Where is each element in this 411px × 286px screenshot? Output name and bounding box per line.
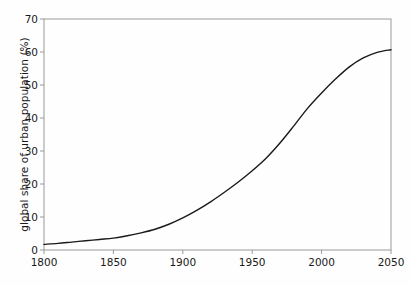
plot-area <box>0 0 411 286</box>
series-line-global-share-of-urban-population <box>44 50 391 245</box>
y-tick-marks <box>40 19 44 250</box>
x-tick-marks <box>44 250 391 254</box>
chart-figure: global share of urban population (%) 010… <box>0 0 411 286</box>
plot-frame <box>44 19 391 250</box>
axis-spines <box>44 19 391 250</box>
